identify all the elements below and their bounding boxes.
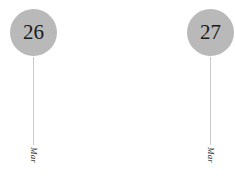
day-marker-circle[interactable]: 26	[10, 9, 57, 56]
month-label-container: Mar	[33, 147, 34, 187]
month-label: Mar	[29, 147, 38, 163]
timeline-tick-27[interactable]: 27 Mar	[181, 0, 235, 188]
month-label: Mar	[206, 147, 215, 163]
tick-connector-line	[33, 57, 34, 145]
month-label-container: Mar	[210, 147, 211, 187]
timeline-tick-26[interactable]: 26 Mar	[4, 0, 64, 188]
timeline-axis: 26 Mar 27 Mar	[0, 0, 235, 188]
day-number-label: 27	[200, 22, 221, 44]
day-number-label: 26	[23, 22, 44, 44]
tick-connector-line	[210, 57, 211, 145]
day-marker-circle[interactable]: 27	[187, 9, 234, 56]
